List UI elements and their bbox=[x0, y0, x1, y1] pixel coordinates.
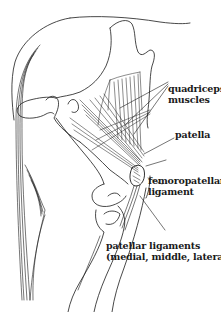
stifle-joint-illustration bbox=[0, 0, 221, 312]
femur-bone bbox=[80, 142, 128, 184]
acetabulum bbox=[68, 100, 79, 113]
patella-shading bbox=[133, 172, 140, 183]
anatomy-diagram: quadriceps muscles patella femoropatella… bbox=[0, 0, 221, 312]
label-patellar-ligaments-line2: (medial, middle, lateral) bbox=[106, 251, 221, 262]
label-quadriceps-line2: muscles bbox=[168, 94, 221, 105]
label-femoropatellar-line2: ligament bbox=[148, 186, 221, 197]
patellar-ligament-lines bbox=[120, 185, 140, 230]
rear-muscle-band bbox=[16, 45, 45, 300]
label-patella: patella bbox=[175, 129, 210, 140]
label-patellar-ligaments: patellar ligaments (medial, middle, late… bbox=[106, 240, 221, 262]
label-quadriceps-muscles: quadriceps muscles bbox=[168, 83, 221, 105]
label-quadriceps-line1: quadriceps bbox=[168, 83, 221, 94]
leader-lines bbox=[120, 82, 174, 230]
patella-bone bbox=[130, 165, 145, 186]
fibula-bone bbox=[78, 236, 100, 290]
tibia-bone bbox=[68, 210, 104, 312]
femoral-head bbox=[17, 97, 56, 118]
label-patella-line1: patella bbox=[175, 129, 210, 140]
body-outline bbox=[70, 17, 190, 24]
label-femoropatellar-ligament: femoropatellar ligament bbox=[148, 175, 221, 197]
label-patellar-ligaments-line1: patellar ligaments bbox=[106, 240, 221, 251]
label-femoropatellar-line1: femoropatellar bbox=[148, 175, 221, 186]
quadriceps-muscle-fibers bbox=[70, 72, 150, 172]
